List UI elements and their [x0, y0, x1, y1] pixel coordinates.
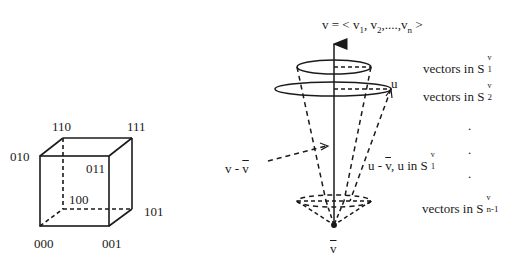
level-label-s1: vectors in Sv1 [423, 60, 498, 75]
u-point-label: u [391, 77, 398, 90]
vertex-label-010: 010 [10, 150, 30, 163]
level-label-s2: vectors in Sv2 [423, 88, 498, 103]
ellipsis-dot: . [468, 166, 471, 182]
ellipsis-dot: . [468, 118, 471, 134]
vector-definition-label: v = < v1, v2,....,vn > [322, 18, 423, 31]
u-minus-vbar-label: u - v, u in Sv1 [368, 157, 442, 172]
vertex-label-111: 111 [127, 120, 146, 133]
hypercube-3d [40, 138, 132, 226]
v-minus-vbar-label: v - v [225, 162, 249, 175]
vertex-label-000: 000 [34, 237, 54, 250]
ellipse-s2 [275, 82, 391, 96]
vertex-label-001: 001 [102, 237, 122, 250]
ellipsis-dot: . [468, 142, 471, 158]
vertex-label-110: 110 [52, 120, 71, 133]
vbar-label: v [330, 242, 337, 255]
level-label-sn-1: vectors in Svn-1 [422, 200, 505, 215]
vertex-label-101: 101 [144, 205, 164, 218]
vertex-label-100: 100 [69, 193, 89, 206]
diagram-canvas [0, 0, 516, 264]
vector-cone [268, 44, 392, 227]
vertex-label-011: 011 [86, 162, 105, 175]
